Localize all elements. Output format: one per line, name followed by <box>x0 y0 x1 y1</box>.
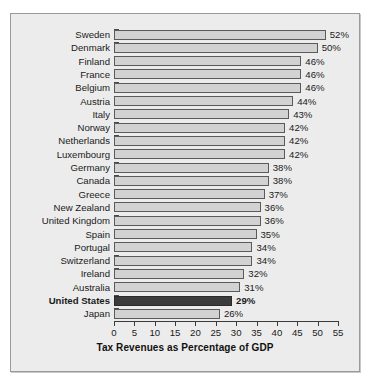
bar-value-label: 52% <box>330 28 349 41</box>
bar-row: Norway42% <box>11 121 359 134</box>
x-tick <box>257 321 258 326</box>
bar <box>114 242 252 252</box>
x-axis-title: Tax Revenues as Percentage of GDP <box>11 342 359 353</box>
category-label: Australia <box>73 281 110 294</box>
x-tick <box>114 321 115 326</box>
category-label: United States <box>49 294 110 307</box>
category-label: Italy <box>92 108 110 121</box>
bar <box>114 136 285 146</box>
bar <box>114 202 261 212</box>
bar-row: Japan26% <box>11 307 359 320</box>
bar-row: Sweden52% <box>11 28 359 41</box>
bar-row: United States29% <box>11 294 359 307</box>
x-tick-label: 55 <box>326 327 350 338</box>
bar <box>114 163 269 173</box>
bar-value-label: 50% <box>322 41 341 54</box>
bar-row: Germany38% <box>11 161 359 174</box>
bar <box>114 229 257 239</box>
bar-row: Greece37% <box>11 188 359 201</box>
category-label: France <box>80 68 110 81</box>
category-label: Finland <box>79 55 110 68</box>
bar-value-label: 46% <box>305 81 324 94</box>
bar-value-label: 38% <box>273 161 292 174</box>
bar <box>114 43 318 53</box>
category-label: Switzerland <box>60 254 110 267</box>
bar-value-label: 46% <box>305 68 324 81</box>
bar <box>114 123 285 133</box>
bar <box>114 109 289 119</box>
category-label: Belgium <box>75 81 110 94</box>
x-tick <box>195 321 196 326</box>
bar <box>114 69 301 79</box>
x-tick <box>216 321 217 326</box>
bar-row: Finland46% <box>11 55 359 68</box>
bar-value-label: 34% <box>256 241 275 254</box>
bar <box>114 269 244 279</box>
bar-value-label: 46% <box>305 55 324 68</box>
category-label: Austria <box>80 95 110 108</box>
bar-value-label: 26% <box>224 307 243 320</box>
bar-value-label: 42% <box>289 148 308 161</box>
bar <box>114 216 261 226</box>
bar <box>114 83 301 93</box>
bar <box>114 30 326 40</box>
category-label: Greece <box>79 188 110 201</box>
bar <box>114 96 293 106</box>
category-label: Netherlands <box>58 134 110 147</box>
category-label: New Zealand <box>53 201 110 214</box>
bar-row: Canada38% <box>11 174 359 187</box>
bar-row: New Zealand36% <box>11 201 359 214</box>
x-tick <box>318 321 319 326</box>
bar-row: Switzerland34% <box>11 254 359 267</box>
bar-value-label: 44% <box>297 95 316 108</box>
bar <box>114 309 220 319</box>
bar-value-label: 36% <box>265 201 284 214</box>
bar-value-label: 42% <box>289 121 308 134</box>
category-label: Sweden <box>75 28 110 41</box>
category-label: Denmark <box>71 41 110 54</box>
bar-row: Italy43% <box>11 108 359 121</box>
category-label: Japan <box>84 307 110 320</box>
bar <box>114 56 301 66</box>
category-label: Norway <box>77 121 110 134</box>
bar-row: Belgium46% <box>11 81 359 94</box>
bar-row: United Kingdom36% <box>11 214 359 227</box>
bar-row: Denmark50% <box>11 41 359 54</box>
bar-row: Spain35% <box>11 228 359 241</box>
category-label: Ireland <box>81 267 110 280</box>
bar-row: Netherlands42% <box>11 134 359 147</box>
bar <box>114 189 265 199</box>
bar-value-label: 37% <box>269 188 288 201</box>
bar <box>114 149 285 159</box>
bar-value-label: 35% <box>261 228 280 241</box>
bar <box>114 176 269 186</box>
bar-value-label: 42% <box>289 134 308 147</box>
category-label: United Kingdom <box>42 214 110 227</box>
bar-value-label: 36% <box>265 214 284 227</box>
bar-value-label: 29% <box>236 294 255 307</box>
bar-row: Austria44% <box>11 95 359 108</box>
category-label: Canada <box>76 174 110 187</box>
bar <box>114 256 252 266</box>
x-tick <box>277 321 278 326</box>
x-tick <box>134 321 135 326</box>
bar-row: Ireland32% <box>11 267 359 280</box>
bar-row: Luxembourg42% <box>11 148 359 161</box>
x-tick <box>236 321 237 326</box>
x-tick <box>175 321 176 326</box>
bar-value-label: 38% <box>273 174 292 187</box>
bar-row: France46% <box>11 68 359 81</box>
bar-value-label: 31% <box>244 281 263 294</box>
bar-row: Australia31% <box>11 281 359 294</box>
bar-row: Portugal34% <box>11 241 359 254</box>
chart-figure: Sweden52%Denmark50%Finland46%France46%Be… <box>10 13 360 372</box>
bar <box>114 296 232 306</box>
category-label: Portugal <box>74 241 110 254</box>
x-tick <box>338 321 339 326</box>
bar-value-label: 43% <box>293 108 312 121</box>
category-label: Spain <box>85 228 110 241</box>
category-label: Luxembourg <box>57 148 110 161</box>
bar-value-label: 34% <box>256 254 275 267</box>
x-axis-line <box>114 321 338 322</box>
bar-value-label: 32% <box>248 267 267 280</box>
